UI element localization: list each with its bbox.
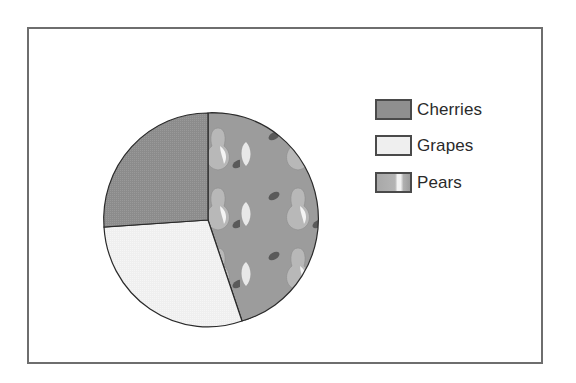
legend-item-grapes[interactable]: Grapes [375,134,473,157]
legend-swatch-cherries [375,99,412,120]
legend-label: Pears [417,173,462,193]
legend-item-cherries[interactable]: Cherries [375,98,482,121]
pie-chart [0,0,576,383]
pie-slice-cherries[interactable] [104,113,208,227]
legend-label: Cherries [417,100,482,120]
legend-swatch-grapes [375,135,412,156]
legend-swatch-pears [375,172,412,193]
legend-label: Grapes [417,136,473,156]
legend-item-pears[interactable]: Pears [375,171,462,194]
